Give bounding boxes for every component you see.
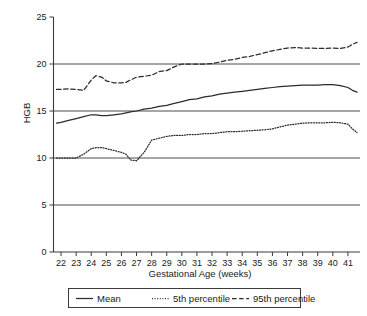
x-tick-label-28: 28 <box>147 258 157 268</box>
y-tick-label-10: 10 <box>36 153 46 163</box>
y-tick-label-15: 15 <box>36 106 46 116</box>
x-tick-label-33: 33 <box>222 258 232 268</box>
legend-label-mean: Mean <box>97 293 121 304</box>
x-tick-label-35: 35 <box>252 258 262 268</box>
x-tick-label-31: 31 <box>192 258 202 268</box>
x-tick-label-34: 34 <box>237 258 247 268</box>
x-tick-label-24: 24 <box>86 258 96 268</box>
line-chart: 0510152025 22232425262728293031323334353… <box>0 0 367 316</box>
x-tick-label-23: 23 <box>71 258 81 268</box>
x-tick-label-40: 40 <box>328 258 338 268</box>
x-tick-label-26: 26 <box>116 258 126 268</box>
legend: Mean5th percentile95th percentile <box>69 289 316 308</box>
y-tick-label-5: 5 <box>41 200 46 210</box>
y-tick-label-20: 20 <box>36 59 46 69</box>
y-tick-label-0: 0 <box>41 247 46 257</box>
x-tick-label-41: 41 <box>343 258 353 268</box>
hgb-gestational-age-chart-figure: 0510152025 22232425262728293031323334353… <box>0 0 367 316</box>
x-tick-label-36: 36 <box>267 258 277 268</box>
legend-label-5th-percentile: 5th percentile <box>173 293 230 304</box>
y-axis-title: HGB <box>21 103 32 124</box>
x-tick-label-25: 25 <box>101 258 111 268</box>
legend-label-95th-percentile: 95th percentile <box>253 293 315 304</box>
x-tick-label-30: 30 <box>177 258 187 268</box>
x-tick-label-39: 39 <box>313 258 323 268</box>
y-tick-label-25: 25 <box>36 12 46 22</box>
x-tick-label-22: 22 <box>56 258 66 268</box>
x-tick-label-37: 37 <box>283 258 293 268</box>
x-tick-label-27: 27 <box>132 258 142 268</box>
x-tick-label-38: 38 <box>298 258 308 268</box>
x-tick-label-29: 29 <box>162 258 172 268</box>
x-tick-label-32: 32 <box>207 258 217 268</box>
x-axis-title: Gestational Age (weeks) <box>149 268 252 279</box>
